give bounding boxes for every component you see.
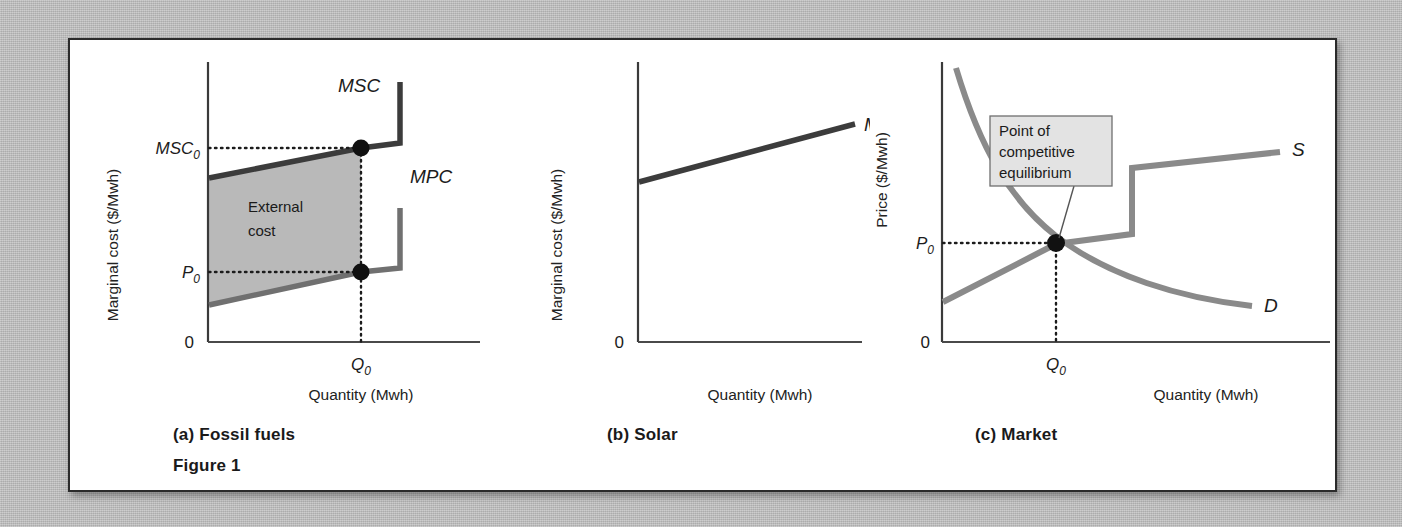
panel-a-y-axis-label: Marginal cost ($/Mwh): [104, 169, 121, 321]
demand-curve-label: D: [1264, 295, 1278, 316]
external-cost-label-line1: External: [248, 198, 303, 215]
figure-panel: Marginal cost ($/Mwh) External cost MSC …: [68, 38, 1337, 492]
panel-c-caption: (c) Market: [975, 425, 1057, 445]
supply-curve-label: S: [1292, 139, 1305, 160]
q0-tick-label: Q0: [351, 355, 371, 378]
panel-b-chart: Marginal cost ($/Mwh) MC 0 Quantity (Mwh…: [470, 40, 870, 420]
msc0-tick-sub: 0: [193, 148, 200, 162]
panel-c-chart: Price ($/Mwh) Point of competitive equil…: [860, 40, 1340, 420]
panel-c-x-axis-label: Quantity (Mwh): [1153, 386, 1258, 403]
callout-leader-line: [1059, 186, 1074, 238]
figure-root: Marginal cost ($/Mwh) External cost MSC …: [0, 0, 1402, 527]
figure-label: Figure 1: [173, 456, 241, 476]
panel-a-chart: Marginal cost ($/Mwh) External cost MSC …: [70, 40, 490, 420]
p0-market-base: P: [916, 234, 928, 253]
panel-b-x-axis-label: Quantity (Mwh): [707, 386, 812, 403]
q0-market-sub: 0: [1059, 364, 1066, 378]
msc0-tick-label: MSC0: [156, 139, 201, 162]
panel-a-origin-label: 0: [185, 333, 194, 352]
callout-text-line1: Point of: [999, 122, 1051, 139]
p0-point-marker: [353, 264, 370, 281]
p0-tick-sub: 0: [193, 272, 200, 286]
q0-tick-base: Q: [351, 355, 364, 374]
callout-text-line3: equilibrium: [999, 164, 1072, 181]
panel-a-caption: (a) Fossil fuels: [173, 425, 295, 445]
panel-b-caption: (b) Solar: [607, 425, 678, 445]
panel-c-origin-label: 0: [921, 333, 930, 352]
panel-a-x-axis-label: Quantity (Mwh): [308, 386, 413, 403]
msc-curve-label: MSC: [338, 75, 381, 96]
panel-b-y-axis-label: Marginal cost ($/Mwh): [548, 169, 565, 321]
callout-text-line2: competitive: [999, 143, 1075, 160]
panel-c-y-axis-label: Price ($/Mwh): [873, 132, 890, 228]
q0-tick-label-market: Q0: [1046, 355, 1066, 378]
panel-b-origin-label: 0: [615, 333, 624, 352]
p0-tick-label: P0: [182, 263, 200, 286]
msc0-tick-base: MSC: [156, 139, 195, 158]
mpc-curve-label: MPC: [410, 166, 453, 187]
p0-market-sub: 0: [927, 243, 934, 257]
external-cost-label-line2: cost: [248, 222, 276, 239]
q0-tick-sub: 0: [364, 364, 371, 378]
p0-tick-base: P: [182, 263, 194, 282]
p0-tick-label-market: P0: [916, 234, 934, 257]
q0-market-base: Q: [1046, 355, 1059, 374]
mc-curve: [639, 124, 855, 182]
equilibrium-point-marker: [1047, 234, 1065, 252]
msc0-point-marker: [353, 140, 370, 157]
